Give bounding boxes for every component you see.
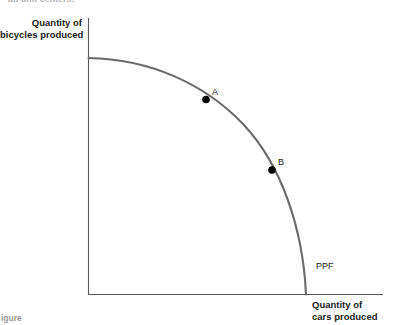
ppf-figure: an unit centers. Quantity of bicycles pr… bbox=[0, 0, 394, 325]
plot-area bbox=[0, 0, 394, 325]
data-point-a bbox=[202, 96, 210, 104]
data-point-b-label: B bbox=[278, 157, 284, 167]
ppf-curve-label: PPF bbox=[316, 261, 334, 271]
ppf-curve-path bbox=[89, 58, 307, 295]
data-point-a-label: A bbox=[212, 87, 218, 97]
figure-caption-bottom-fragment: igure bbox=[1, 313, 22, 323]
data-point-b bbox=[268, 166, 276, 174]
